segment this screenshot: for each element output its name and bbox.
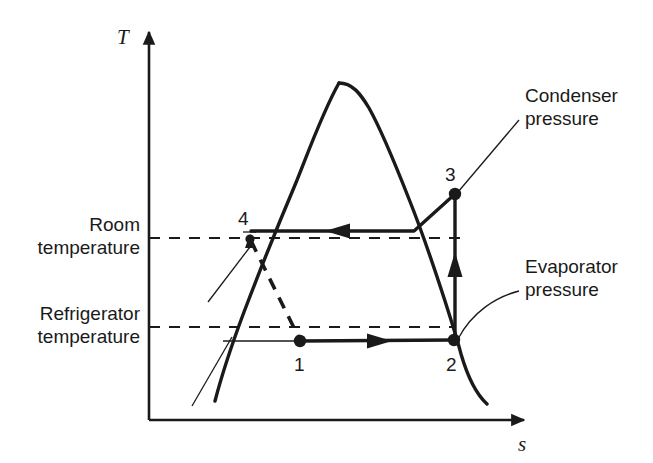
state-point-4-marker — [245, 234, 254, 243]
evaporator-pressure-isobar-thin-line — [192, 337, 232, 406]
figure-canvas: T s Room temperature Refrigerator temper… — [0, 0, 653, 463]
process-1-to-2-flow-arrow-icon — [367, 334, 392, 349]
process-3-to-4-condenser-line — [251, 194, 455, 231]
isobar-thin-lines-group — [192, 232, 300, 406]
process-4-to-1-throttle-dashed-line — [251, 241, 300, 340]
saturated-liquid-line — [215, 83, 339, 401]
x-axis-label: s — [518, 434, 526, 455]
condenser-pressure-leader-line — [458, 120, 519, 192]
state-point-2-label: 2 — [446, 355, 457, 374]
state-point-markers-group — [245, 188, 461, 347]
condenser-pressure-isobar-thin-line — [208, 243, 253, 302]
room-temperature-label-line2: temperature — [0, 236, 140, 259]
cycle-process-group — [245, 194, 463, 349]
y-axis-label: T — [117, 27, 129, 48]
evaporator-pressure-label-line2: pressure — [525, 278, 599, 301]
room-temperature-label-line1: Room — [0, 213, 140, 236]
state-point-1-label: 1 — [294, 355, 305, 374]
evaporator-pressure-leader-line — [458, 291, 519, 339]
evaporator-pressure-label-line1: Evaporator — [525, 255, 618, 278]
state-point-3-label: 3 — [445, 165, 456, 184]
refrigerator-temperature-label-line2: temperature — [0, 325, 140, 348]
condenser-pressure-label-line1: Condenser — [525, 84, 618, 107]
state-point-1-marker — [294, 335, 306, 347]
process-2-to-3-flow-arrow-icon — [448, 252, 463, 277]
callout-leaders-group — [458, 120, 519, 339]
condenser-pressure-label-line2: pressure — [525, 107, 599, 130]
reference-lines-group — [149, 238, 462, 327]
state-point-2-marker — [448, 334, 460, 346]
saturated-vapour-line — [339, 83, 487, 404]
state-point-4-label: 4 — [238, 209, 249, 228]
process-3-to-4-flow-arrow-icon — [325, 224, 350, 239]
refrigerator-temperature-label-line1: Refrigerator — [0, 302, 140, 325]
